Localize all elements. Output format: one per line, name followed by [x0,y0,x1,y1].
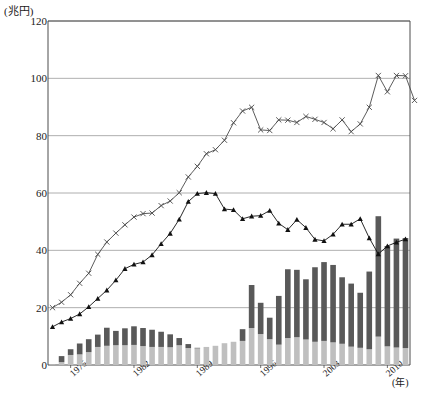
bar-segment-top [339,277,345,344]
bar-segment-top [294,270,300,337]
marker-x [303,114,308,119]
bar-segment-bottom [385,346,391,365]
marker-triangle [294,217,299,222]
bar-segment-top [267,318,273,340]
bar-segment-top [312,267,318,342]
bar-segment-top [149,330,155,347]
bar-segment-top [403,238,409,348]
marker-x [358,121,363,126]
bar-segment-top [59,356,65,362]
bar-segment-bottom [167,347,173,365]
marker-x [68,292,73,297]
bar-segment-bottom [158,347,164,365]
bar-segment-bottom [222,343,228,365]
marker-triangle [367,235,372,240]
bar-segment-top [122,328,128,345]
marker-x [330,126,335,131]
marker-x [349,129,354,134]
marker-x [204,151,209,156]
bar-segment-bottom [59,362,65,365]
bar-segment-top [113,331,119,345]
bar-segment-bottom [366,349,372,365]
marker-x [385,89,390,94]
bar-segment-top [195,348,201,349]
bar-segment-top [249,285,255,328]
bar-segment-top [158,332,164,347]
bar-segment-bottom [231,342,237,365]
marker-x [131,214,136,219]
marker-x [367,105,372,110]
marker-triangle [59,319,64,324]
bar-segment-top [95,335,101,347]
bar-segment-bottom [104,346,110,365]
bar-segment-top [86,339,92,352]
bar-segment-top [330,265,336,342]
marker-x [249,105,254,110]
bar-segment-bottom [312,342,318,365]
bar-segment-bottom [348,347,354,365]
bar-segment-top [258,303,264,334]
marker-x [159,203,164,208]
bar-segment-bottom [258,334,264,365]
bar-segment-bottom [249,328,255,365]
marker-x [412,98,417,103]
bar-segment-bottom [50,364,56,365]
bar-segment-top [240,329,246,341]
bar-segment-top [68,349,74,355]
marker-x [77,281,82,286]
bar-segment-top [140,328,146,346]
marker-x [186,174,191,179]
bar-segment-top [167,334,173,347]
bar-segment-bottom [303,339,309,365]
bar-segment-bottom [294,337,300,365]
bar-segment-bottom [140,346,146,365]
marker-x [95,252,100,257]
marker-x [340,117,345,122]
marker-x [312,117,317,122]
marker-triangle [122,266,127,271]
marker-x [104,239,109,244]
marker-x [231,120,236,125]
marker-x [240,108,245,113]
bar-segment-top [276,296,282,345]
bar-segment-top [77,344,83,355]
marker-triangle [168,231,173,236]
bar-segment-bottom [357,348,363,365]
bar-segment-bottom [86,352,92,365]
expenditure-revenue-chart: (兆円) (年) 020406080100120 197519821989199… [0,0,426,397]
bar-segment-bottom [321,341,327,365]
bar-segment-bottom [195,348,201,365]
marker-triangle [358,216,363,221]
bar-segment-top [104,328,110,346]
marker-triangle [68,316,73,321]
bar-segment-top [131,326,137,345]
marker-triangle [50,324,55,329]
bar-segment-bottom [113,345,119,365]
bar-segment-bottom [394,348,400,365]
marker-x [122,222,127,227]
bar-segment-bottom [285,338,291,365]
bar-segment-bottom [95,347,101,365]
marker-triangle [177,217,182,222]
marker-x [113,231,118,236]
marker-x [321,120,326,125]
marker-triangle [385,243,390,248]
bar-segment-top [321,262,327,341]
plot-area [0,0,426,397]
bar-segment-bottom [403,348,409,365]
bar-segment-bottom [149,347,155,365]
bar-segment-bottom [131,345,137,365]
marker-x [213,147,218,152]
bar-segment-top [285,269,291,338]
bar-segment-bottom [276,345,282,365]
bar-segment-top [394,239,400,348]
bar-segment-bottom [213,346,219,365]
bar-segment-bottom [267,339,273,365]
bar-segment-top [366,272,372,350]
marker-x [195,164,200,169]
bar-segment-top [176,338,182,345]
series-line [53,75,415,307]
bar-segment-top [357,293,363,348]
marker-triangle [267,208,272,213]
bar-segment-top [376,216,382,336]
